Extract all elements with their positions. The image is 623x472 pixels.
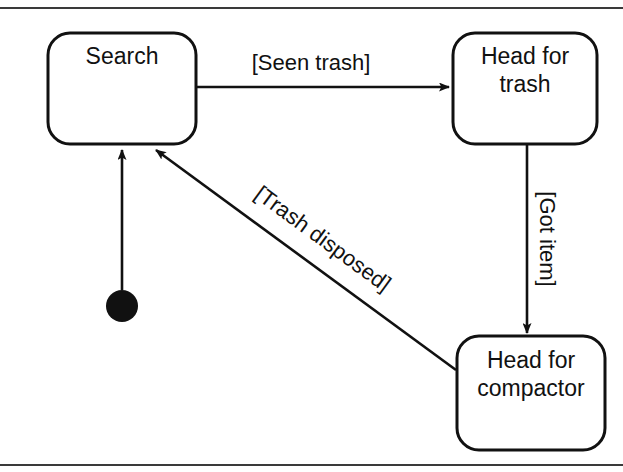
guard-label-trash-disposed: [Trash disposed] [250,181,395,297]
diagram-canvas: Search Head for trash Head for compactor… [0,0,623,472]
state-search-label: Search [86,43,159,69]
transition-head-compactor-to-search [156,150,456,370]
state-head-for-compactor-label-line2: compactor [477,375,585,401]
state-machine-diagram: Search Head for trash Head for compactor… [0,0,623,472]
guard-label-got-item: [Got item] [535,191,560,286]
state-head-for-compactor-label-line1: Head for [487,347,576,373]
initial-pseudostate-icon [106,290,138,322]
guard-label-seen-trash: [Seen trash] [252,50,371,75]
state-head-for-trash-label-line2: trash [499,71,550,97]
state-head-for-trash-label-line1: Head for [481,43,570,69]
